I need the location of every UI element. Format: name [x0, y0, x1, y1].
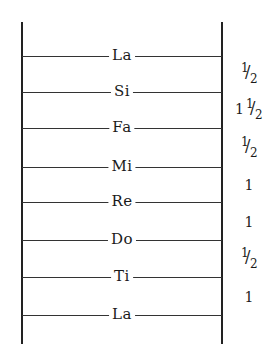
note-label: Do [108, 231, 136, 248]
note-label: Fa [109, 119, 134, 136]
interval-label: 1/2 [230, 62, 268, 84]
note-label: Ti [111, 268, 133, 285]
interval-label: 1 [230, 214, 268, 230]
note-label: Si [111, 83, 133, 100]
note-label: La [109, 306, 135, 323]
note-label: Re [108, 193, 135, 210]
right-rail [221, 22, 223, 344]
interval-label: 1/2 [230, 247, 268, 269]
fraction: 1/2 [240, 247, 258, 269]
interval-label: 1 [230, 177, 268, 193]
interval-label: 1/2 [230, 136, 268, 158]
interval-label: 1 1/2 [230, 98, 268, 120]
fraction: 1/2 [240, 136, 258, 158]
note-label: Mi [108, 158, 135, 175]
interval-label: 1 [230, 289, 268, 305]
left-rail [21, 22, 23, 344]
note-label: La [109, 47, 135, 64]
fraction: 1/2 [240, 62, 258, 84]
fraction: 1/2 [245, 98, 263, 120]
